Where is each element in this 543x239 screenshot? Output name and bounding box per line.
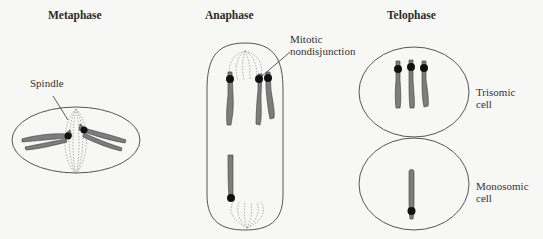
trisomic-centromere-3 [420, 64, 428, 72]
anaphase-chromosomes [227, 72, 275, 197]
trisomic-centromere-2 [407, 63, 415, 71]
trisomic-centromere-1 [394, 65, 402, 73]
metaphase-centromere-left [65, 133, 72, 140]
anaphase-centromere-4 [227, 194, 235, 202]
anaphase-spindle-bottom [231, 202, 263, 228]
spindle-pointer-line [53, 96, 68, 120]
metaphase-chromosomes [22, 124, 126, 151]
anaphase-centromere-1 [226, 75, 234, 83]
metaphase-spindle [65, 109, 87, 174]
anaphase-centromere-2 [255, 75, 263, 83]
mitosis-diagram [0, 0, 543, 239]
metaphase-centromere-right [81, 127, 88, 134]
anaphase-cell [207, 43, 283, 230]
monosomic-centromere [408, 207, 416, 215]
anaphase-centromere-3 [264, 74, 272, 82]
